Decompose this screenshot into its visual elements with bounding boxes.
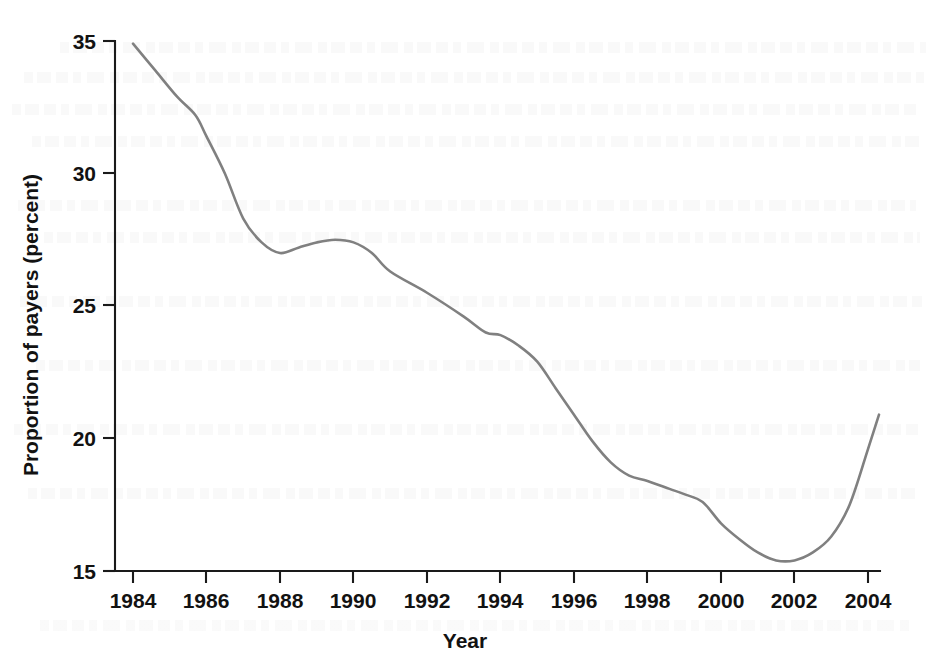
- y-tick-label-35: 35: [73, 30, 97, 53]
- data-series-line: [133, 44, 879, 562]
- x-axis-ticks: [133, 571, 868, 583]
- y-tick-label-20: 20: [73, 427, 96, 450]
- x-tick-label-1990: 1990: [330, 589, 377, 612]
- x-tick-label-1994: 1994: [477, 589, 524, 612]
- axis-spines: [115, 41, 880, 571]
- y-tick-label-25: 25: [73, 294, 97, 317]
- y-tick-label-30: 30: [73, 162, 96, 185]
- y-tick-label-15: 15: [73, 560, 97, 583]
- x-axis-title: Year: [443, 629, 487, 652]
- x-tick-label-1992: 1992: [404, 589, 451, 612]
- x-tick-label-1996: 1996: [551, 589, 598, 612]
- x-tick-label-1998: 1998: [624, 589, 671, 612]
- x-tick-label-1986: 1986: [183, 589, 230, 612]
- y-axis-ticks: [103, 41, 115, 571]
- line-chart-plot: 35 30 25 20 15 1984 1986 1988 1990 1992 …: [0, 0, 928, 662]
- x-tick-labels: 1984 1986 1988 1990 1992 1994 1996 1998 …: [110, 589, 892, 612]
- x-tick-label-2004: 2004: [845, 589, 892, 612]
- x-tick-label-2002: 2002: [771, 589, 818, 612]
- x-tick-label-1988: 1988: [257, 589, 304, 612]
- chart-figure: 35 30 25 20 15 1984 1986 1988 1990 1992 …: [0, 0, 928, 662]
- x-tick-label-1984: 1984: [110, 589, 157, 612]
- y-axis-title: Proportion of payers (percent): [19, 174, 42, 476]
- x-tick-label-2000: 2000: [698, 589, 745, 612]
- y-tick-labels: 35 30 25 20 15: [73, 30, 97, 583]
